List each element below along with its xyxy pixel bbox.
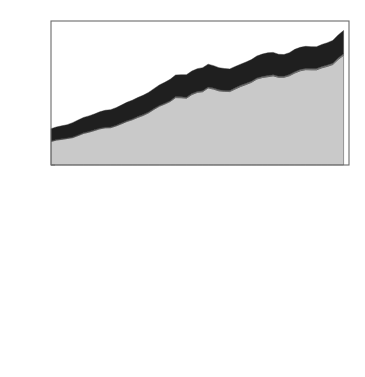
panel-sources: [49, 7, 351, 165]
co2-flux-figure: [0, 0, 365, 377]
figure-root: [0, 0, 365, 377]
plot-topmask: [49, 7, 351, 21]
